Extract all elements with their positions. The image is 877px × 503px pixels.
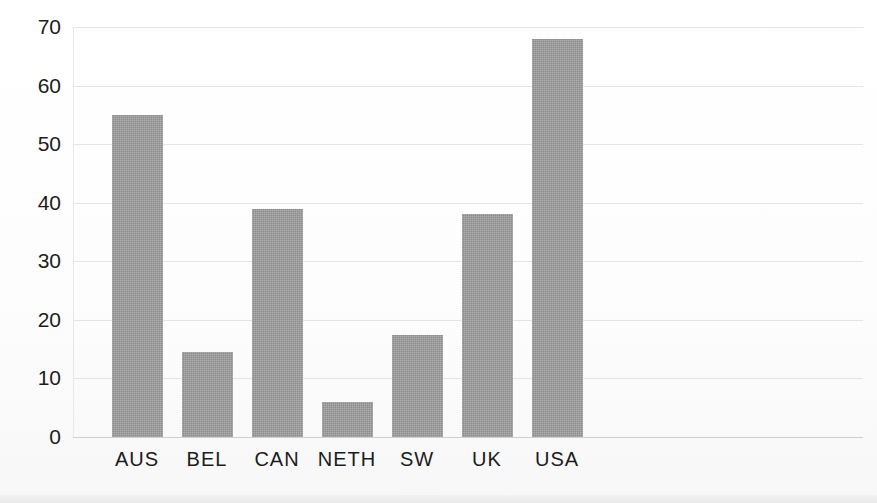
chart-screenshot: 010203040506070 AUSBELCANNETHSWUKUSA · ·… <box>0 0 877 503</box>
x-tick-label-aus: AUS <box>115 448 159 471</box>
y-tick-label-60: 60 <box>5 74 61 98</box>
x-tick-label-uk: UK <box>472 448 502 471</box>
bar-can <box>252 209 303 437</box>
y-tick-label-20: 20 <box>5 308 61 332</box>
x-tick-label-can: CAN <box>254 448 299 471</box>
gridline-0 <box>73 437 863 438</box>
plot-area <box>73 27 863 437</box>
scan-edge <box>0 495 877 503</box>
bar-aus <box>112 115 163 437</box>
x-tick-label-bel: BEL <box>187 448 228 471</box>
bar-uk <box>462 214 513 437</box>
y-tick-label-0: 0 <box>5 425 61 449</box>
x-tick-label-sw: SW <box>400 448 434 471</box>
bar-neth <box>322 402 373 437</box>
x-tick-label-usa: USA <box>535 448 579 471</box>
bar-usa <box>532 39 583 437</box>
bar-sw <box>392 335 443 438</box>
bar-bel <box>182 352 233 437</box>
y-tick-label-40: 40 <box>5 191 61 215</box>
bar-series <box>73 27 863 437</box>
y-tick-label-50: 50 <box>5 132 61 156</box>
x-tick-label-neth: NETH <box>318 448 376 471</box>
y-tick-label-70: 70 <box>5 15 61 39</box>
y-tick-label-30: 30 <box>5 249 61 273</box>
y-tick-label-10: 10 <box>5 366 61 390</box>
